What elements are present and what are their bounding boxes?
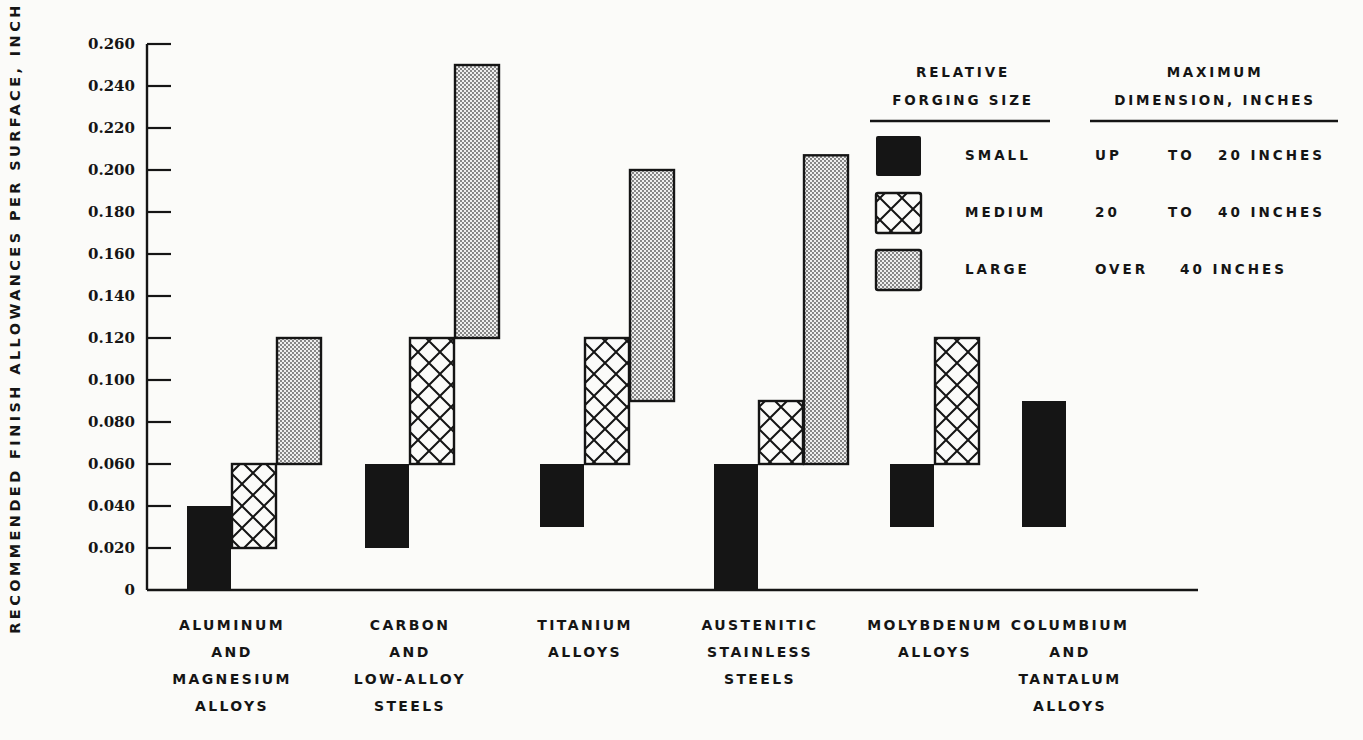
bar-large (630, 170, 674, 401)
bar-medium (585, 338, 629, 464)
legend-header-size: RELATIVE FORGING SIZE (868, 58, 1058, 114)
legend-dimension-label: TO (1168, 204, 1195, 220)
y-tick-label: 0.100 (88, 371, 135, 389)
y-tick-label: 0.080 (88, 413, 135, 431)
y-tick-label: 0.060 (88, 455, 135, 473)
legend-swatch-medium (876, 193, 921, 233)
y-tick-label: 0.240 (88, 77, 135, 95)
category-label: ALUMINUMANDMAGNESIUMALLOYS (157, 612, 307, 720)
y-tick-label: 0.180 (88, 203, 135, 221)
legend-size-label: MEDIUM (965, 204, 1046, 220)
bar-large (455, 65, 499, 338)
category-label: COLUMBIUMANDTANTALUMALLOYS (995, 612, 1145, 720)
bar-small (540, 464, 584, 527)
bar-large (277, 338, 321, 464)
y-tick-label: 0.160 (88, 245, 135, 263)
legend-size-label: SMALL (965, 147, 1031, 163)
y-tick-label: 0.040 (88, 497, 135, 515)
bar-medium (935, 338, 979, 464)
bars (187, 65, 1066, 590)
y-tick-label: 0.220 (88, 119, 135, 137)
bar-small (365, 464, 409, 548)
legend-dimension-label: 40 INCHES (1218, 204, 1325, 220)
category-label: CARBONANDLOW-ALLOYSTEELS (335, 612, 485, 720)
legend-dimension-label: 20 INCHES (1218, 147, 1325, 163)
y-tick-label: 0.020 (88, 539, 135, 557)
legend-dimension-label: 20 (1095, 204, 1120, 220)
bar-small (1022, 401, 1066, 527)
category-label: TITANIUMALLOYS (510, 612, 660, 666)
bar-medium (232, 464, 276, 548)
legend-dimension-label: TO (1168, 147, 1195, 163)
y-tick-label: 0.120 (88, 329, 135, 347)
bar-small (187, 506, 231, 590)
y-tick-label: 0.260 (88, 35, 135, 53)
y-tick-label: 0 (125, 581, 135, 599)
legend-size-label: LARGE (965, 261, 1030, 277)
category-label: AUSTENITICSTAINLESSSTEELS (685, 612, 835, 693)
legend-dimension-label: OVER (1095, 261, 1148, 277)
y-tick-label: 0.140 (88, 287, 135, 305)
y-tick-label: 0.200 (88, 161, 135, 179)
bar-medium (759, 401, 803, 464)
bar-large (804, 155, 848, 464)
legend-header-dimension: MAXIMUM DIMENSION, INCHES (1090, 58, 1340, 114)
bar-small (890, 464, 934, 527)
bar-small (714, 464, 758, 590)
bar-medium (410, 338, 454, 464)
legend-swatch-large (876, 250, 921, 290)
category-label: MOLYBDENUMALLOYS (860, 612, 1010, 666)
legend-swatch-small (876, 136, 921, 176)
legend-dimension-label: UP (1095, 147, 1122, 163)
legend-dimension-label: 40 INCHES (1180, 261, 1287, 277)
